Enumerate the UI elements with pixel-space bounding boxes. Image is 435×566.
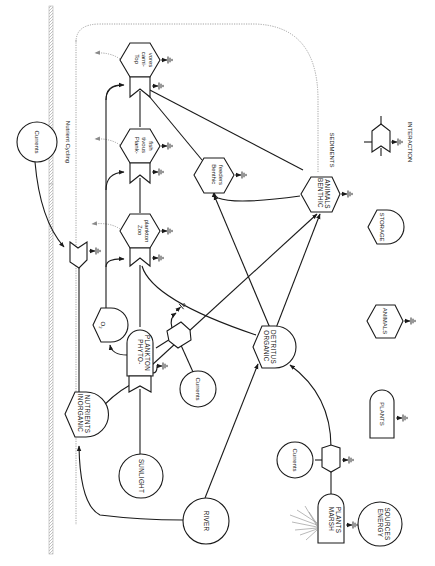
- river-label: RIVER: [203, 511, 210, 532]
- node-benthic-feeders[interactable]: Benthic feeders: [194, 158, 246, 193]
- marsh-grass-icon: [290, 506, 317, 540]
- node-marsh-plants[interactable]: MARSH PLANTS: [318, 494, 357, 543]
- legend-storage: STORAGE: [368, 210, 404, 244]
- flow-phyto-to-o2: [110, 345, 127, 355]
- node-benthic-animals[interactable]: BENTHIC ANIMALS: [301, 177, 352, 212]
- node-zooplankton-interaction[interactable]: [130, 248, 163, 266]
- marsh-plants-label: MARSH PLANTS: [328, 507, 342, 533]
- legend-interaction: INTERACTION: [364, 116, 413, 162]
- node-phytoplankton[interactable]: PHYTO- PLANKTON: [127, 330, 167, 376]
- benthic-animals-label: BENTHIC ANIMALS: [317, 178, 331, 210]
- node-currents-top[interactable]: Currents: [17, 122, 57, 162]
- node-planktivorous-fish-interaction[interactable]: [130, 163, 163, 183]
- nutrient-cycling-label: Nutrient Cycling: [65, 121, 71, 163]
- legend-interaction-label: INTERACTION: [407, 122, 413, 163]
- legend-plants-label: PLANTS: [379, 402, 385, 425]
- flow-marsh-interaction-to-detritus: [290, 365, 331, 447]
- ecosystem-energy-diagram: Nutrient Cycling SEDIMENTS: [0, 0, 435, 566]
- node-mixing-interaction[interactable]: [70, 242, 100, 268]
- flow-detritus-to-benthic-feeders: [214, 195, 270, 328]
- node-marsh-interaction[interactable]: [322, 445, 353, 472]
- flow-o2-to-plank-fish: [106, 172, 124, 190]
- node-energy-sources[interactable]: ENERGY SOURCES: [358, 502, 402, 546]
- recycle-arrow-top-carnivores: [95, 53, 120, 59]
- flow-benthic-animals-to-feeders: [214, 192, 300, 201]
- water-surface-band-lower: [49, 184, 53, 554]
- legend-plants: PLANTS: [370, 390, 407, 438]
- node-currents-mid[interactable]: Currents: [180, 371, 216, 407]
- currents-mid-label: Currents: [195, 377, 201, 400]
- legend-animals: ANIMALS: [367, 305, 415, 338]
- energy-sources-label: ENERGY SOURCES: [377, 507, 391, 540]
- flow-o2-to-consumers: [106, 85, 121, 308]
- node-planktivorous-fish[interactable]: Plank- tivous fish: [120, 129, 172, 163]
- flow-top-to-benthic-animals: [146, 88, 303, 170]
- node-currents-bottom[interactable]: Currents: [277, 442, 313, 478]
- phytoplankton-label: PHYTO- PLANKTON: [137, 335, 151, 371]
- node-river[interactable]: RIVER: [183, 498, 229, 544]
- sediments-label: SEDIMENTS: [329, 132, 335, 167]
- flow-o2-to-top-carnivores: [106, 85, 124, 100]
- node-oxygen-storage[interactable]: O2: [93, 308, 128, 342]
- node-export-interaction[interactable]: [167, 322, 191, 348]
- flow-o2-to-zooplankton: [106, 259, 124, 267]
- organic-detritus-label: ORGANIC DETRITUS: [263, 330, 277, 364]
- inorganic-nutrients-label: INORGANIC NUTRIENTS: [77, 394, 91, 434]
- sunlight-label: SUNLIGHT: [138, 459, 145, 493]
- currents-top-label: Currents: [34, 130, 40, 153]
- flow-zoo-to-detritus: [142, 266, 256, 335]
- node-organic-detritus[interactable]: ORGANIC DETRITUS: [253, 326, 296, 368]
- node-top-carnivores[interactable]: Top carni- vores: [120, 43, 172, 77]
- legend-storage-label: STORAGE: [379, 212, 385, 241]
- node-zooplankton[interactable]: Zoo plankton: [120, 214, 172, 248]
- currents-bottom-label: Currents: [292, 448, 298, 471]
- node-sunlight[interactable]: SUNLIGHT: [119, 454, 163, 498]
- recycle-arrow-planktivorous: [95, 139, 120, 145]
- flow-currents-mid-to-export: [180, 343, 193, 372]
- legend-animals-label: ANIMALS: [382, 308, 388, 334]
- node-inorganic-nutrients[interactable]: INORGANIC NUTRIENTS: [65, 392, 109, 437]
- benthic-feeders-label: Benthic feeders: [211, 164, 224, 186]
